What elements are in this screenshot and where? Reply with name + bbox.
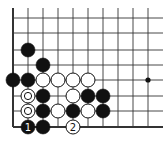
black-stone: [21, 43, 35, 57]
black-stone: [66, 104, 80, 118]
white-stone: [81, 104, 95, 118]
white-stone: [51, 104, 65, 118]
black-stone: [36, 120, 50, 134]
black-stone: [36, 89, 50, 103]
black-stone: 1: [21, 120, 35, 134]
star-point: [145, 77, 150, 82]
move-number-label: 1: [25, 122, 31, 133]
white-stone: [21, 89, 35, 103]
star-points: [145, 77, 150, 82]
white-stone: [66, 89, 80, 103]
move-number-label: 2: [70, 122, 76, 133]
black-stone: [81, 89, 95, 103]
white-stone: [66, 73, 80, 87]
black-stone: [96, 89, 110, 103]
white-stone: 2: [66, 120, 80, 134]
black-stone: [21, 73, 35, 87]
black-stone: [36, 104, 50, 118]
white-stone: [81, 73, 95, 87]
black-stone: [6, 73, 20, 87]
white-stone: [21, 104, 35, 118]
go-board-diagram: 12: [0, 0, 167, 144]
white-stone: [51, 73, 65, 87]
white-stone: [36, 73, 50, 87]
black-stone: [36, 58, 50, 72]
black-stone: [96, 104, 110, 118]
